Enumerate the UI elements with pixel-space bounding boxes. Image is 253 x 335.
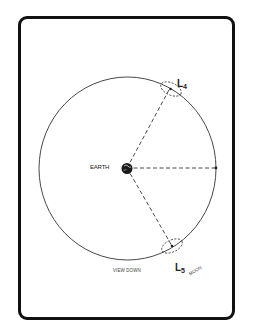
- l4-label: L4: [177, 78, 187, 90]
- earth-label: EARTH: [90, 164, 109, 170]
- dashed-line-to-l4: [127, 88, 170, 168]
- orbit-diagram: [0, 0, 253, 335]
- l4-label-subscript: 4: [183, 83, 187, 90]
- dashed-line-to-l5: [127, 168, 172, 246]
- l5-point-icon: [171, 245, 174, 248]
- earth-icon: [122, 163, 133, 174]
- l5-label-subscript: 5: [181, 267, 185, 274]
- view-down-caption: VIEW DOWN: [113, 268, 141, 273]
- l4-point-icon: [169, 88, 172, 91]
- moon-point-icon: [215, 167, 218, 170]
- l5-label: L5: [175, 262, 185, 274]
